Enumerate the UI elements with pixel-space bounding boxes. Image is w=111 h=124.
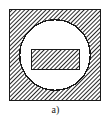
- figure-caption: a): [0, 104, 111, 116]
- figure-container: a): [0, 0, 111, 124]
- insert-hatch-fill: [31, 49, 80, 70]
- hatched-rectangular-insert: [31, 49, 80, 70]
